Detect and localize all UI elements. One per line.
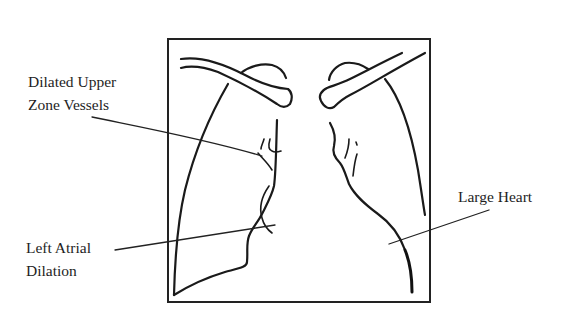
left-atrial-leader-line xyxy=(115,225,275,250)
label-left-atrial-dilation: Left Atrial Dilation xyxy=(26,236,91,282)
label-line: Zone Vessels xyxy=(28,93,116,116)
left-hilar-vessels xyxy=(345,139,357,176)
label-line: Dilation xyxy=(26,259,91,282)
label-dilated-upper-zone-vessels: Dilated Upper Zone Vessels xyxy=(28,70,116,116)
right-hilar-vessels xyxy=(258,139,281,170)
label-line: Dilated Upper xyxy=(28,70,116,93)
label-line: Large Heart xyxy=(458,185,532,208)
large-heart-leader-line xyxy=(389,210,489,244)
left-clavicle xyxy=(320,53,425,108)
right-lung-outline xyxy=(174,84,277,295)
label-large-heart: Large Heart xyxy=(458,185,532,208)
upper-zone-leader-line xyxy=(92,117,262,156)
left-lung-heart-outline xyxy=(330,79,425,292)
label-line: Left Atrial xyxy=(26,236,91,259)
xray-frame xyxy=(168,39,430,302)
right-clavicle xyxy=(181,58,292,107)
